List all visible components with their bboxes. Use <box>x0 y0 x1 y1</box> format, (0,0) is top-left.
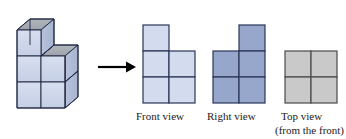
right-view-label: Right view <box>207 110 256 122</box>
right-view-shape <box>213 25 265 103</box>
front-view-shape <box>143 25 195 103</box>
top-view-sublabel: (from the front) <box>275 124 344 136</box>
cube-front-face <box>41 82 65 108</box>
top-view-label: Top view <box>281 110 322 122</box>
isometric-solid <box>17 19 78 108</box>
top-view-shape <box>285 51 337 103</box>
cube-front-face <box>41 56 65 82</box>
cube-front-face <box>17 56 41 82</box>
figure-canvas: Front view Right view Top view (from the… <box>0 0 346 139</box>
front-view-label: Front view <box>136 110 184 122</box>
transformation-arrow <box>98 62 136 73</box>
cube-front-face <box>17 82 41 108</box>
cube-front-face <box>17 30 41 56</box>
